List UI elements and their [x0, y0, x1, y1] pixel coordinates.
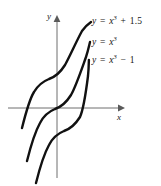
- x-axis-arrowhead: [118, 105, 125, 112]
- label-constant: 1.5: [130, 16, 142, 26]
- label-operator: +: [120, 16, 128, 26]
- label-constant: 1: [130, 55, 135, 65]
- curve-label-cubic-plus-1point5: y = x3 + 1.5: [92, 17, 142, 27]
- cubic-functions-figure: y x y = x3 + 1.5 y = x3 y = x3 − 1: [0, 0, 161, 186]
- curve-cubic-minus-1: [36, 60, 89, 183]
- label-equals: =: [99, 37, 107, 47]
- label-exponent: 3: [114, 35, 117, 42]
- x-axis-label: x: [117, 113, 121, 122]
- curve-cubic: [27, 42, 90, 161]
- label-exponent: 3: [114, 53, 117, 60]
- label-operator: −: [120, 55, 128, 65]
- label-exponent: 3: [114, 14, 117, 21]
- label-lhs: y: [92, 37, 96, 47]
- curve-label-cubic: y = x3: [92, 38, 117, 48]
- label-equals: =: [99, 55, 107, 65]
- plot-canvas: [0, 0, 161, 186]
- y-axis: [54, 15, 61, 178]
- label-lhs: y: [92, 55, 96, 65]
- y-axis-arrowhead: [54, 15, 61, 22]
- y-axis-label: y: [47, 12, 51, 21]
- label-equals: =: [99, 16, 107, 26]
- label-lhs: y: [92, 16, 96, 26]
- curve-label-cubic-minus-1: y = x3 − 1: [92, 56, 135, 66]
